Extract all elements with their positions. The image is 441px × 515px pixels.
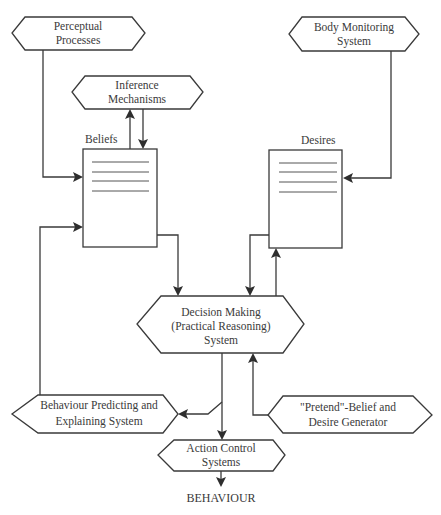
edge-predicting-to-beliefs <box>40 222 83 395</box>
node-body-monitoring-line2: System <box>337 35 371 48</box>
cognitive-architecture-diagram: Perceptual Processes Inference Mechanism… <box>0 0 441 515</box>
edge-decision-to-action <box>217 353 227 440</box>
edge-decision-to-predicting <box>178 402 222 419</box>
node-decision-making[interactable]: Decision Making (Practical Reasoning) Sy… <box>137 296 304 353</box>
node-perceptual-processes-line2: Processes <box>56 34 101 46</box>
desires-document <box>269 150 342 248</box>
output-behaviour-label: BEHAVIOUR <box>186 491 255 505</box>
edge-body-to-desires <box>343 51 391 183</box>
edge-desires-to-decision <box>245 235 269 296</box>
node-behaviour-predicting[interactable]: Behaviour Predicting and Explaining Syst… <box>12 395 178 433</box>
node-action-control-line1: Action Control <box>186 442 255 454</box>
node-inference-mechanisms-line2: Mechanisms <box>108 93 167 105</box>
node-behaviour-predicting-line1: Behaviour Predicting and <box>40 399 158 412</box>
node-inference-mechanisms[interactable]: Inference Mechanisms <box>72 76 203 109</box>
edge-perceptual-to-beliefs <box>43 50 83 182</box>
node-body-monitoring-system[interactable]: Body Monitoring System <box>289 17 419 51</box>
edge-action-to-behaviour <box>216 471 226 487</box>
edge-pretend-to-decision <box>248 353 268 415</box>
node-decision-line2: (Practical Reasoning) <box>171 320 270 333</box>
node-desires[interactable]: Desires <box>269 134 342 248</box>
node-action-control[interactable]: Action Control Systems <box>158 440 285 471</box>
edge-beliefs-to-inference <box>125 109 135 149</box>
node-action-control-line2: Systems <box>202 456 241 469</box>
desires-label: Desires <box>301 134 336 146</box>
node-decision-line3: System <box>204 334 238 347</box>
beliefs-document <box>83 149 157 247</box>
node-beliefs[interactable]: Beliefs <box>83 133 157 247</box>
edge-decision-to-desires <box>271 248 281 296</box>
node-body-monitoring-line1: Body Monitoring <box>314 21 394 34</box>
edge-inference-to-beliefs <box>138 109 148 149</box>
node-pretend-generator[interactable]: "Pretend"-Belief and Desire Generator <box>268 396 432 433</box>
node-perceptual-processes[interactable]: Perceptual Processes <box>12 17 145 50</box>
edge-beliefs-to-decision <box>157 235 183 296</box>
node-perceptual-processes-line1: Perceptual <box>54 20 103 33</box>
node-pretend-line1: "Pretend"-Belief and <box>300 401 396 413</box>
node-inference-mechanisms-line1: Inference <box>115 79 158 91</box>
node-pretend-line2: Desire Generator <box>309 416 388 428</box>
beliefs-label: Beliefs <box>85 133 118 145</box>
node-behaviour-predicting-line2: Explaining System <box>55 415 142 428</box>
node-decision-line1: Decision Making <box>181 306 261 319</box>
